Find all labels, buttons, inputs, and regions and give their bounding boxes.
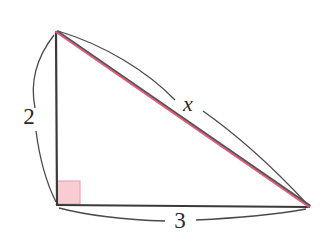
measure-arc-horizontal-right — [196, 209, 306, 220]
horizontal-leg — [57, 205, 309, 207]
measure-arc-vertical-lower — [36, 131, 56, 202]
measure-arc-vertical-upper — [33, 35, 54, 108]
label-side-x: x — [182, 91, 193, 116]
right-angle-square — [57, 181, 80, 204]
measure-arc-hypotenuse-upper — [58, 31, 175, 100]
measure-arc-hypotenuse-lower — [203, 111, 307, 204]
hypotenuse — [56, 32, 309, 207]
label-side-3: 3 — [174, 208, 186, 233]
label-side-2: 2 — [23, 104, 35, 129]
triangle-diagram-canvas: 2 3 x — [0, 0, 325, 244]
hypotenuse-shadow — [58, 32, 310, 206]
triangle-figure: 2 3 x — [0, 0, 325, 244]
vertical-leg — [56, 32, 57, 205]
measure-arc-vertical — [33, 35, 56, 202]
measure-arc-horizontal-left — [59, 208, 165, 221]
